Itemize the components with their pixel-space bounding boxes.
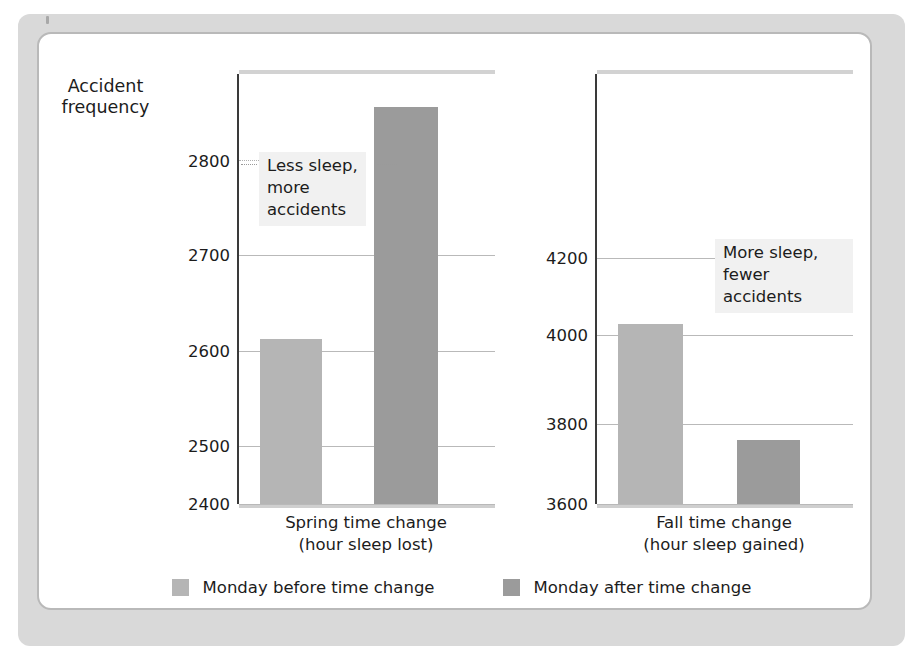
tick-label-fall-3600: 3600 — [546, 494, 588, 513]
legend-item-monday-before: Monday before time change — [172, 578, 435, 597]
tick-label-spring-2500: 2500 — [188, 437, 230, 456]
legend-label-monday-after: Monday after time change — [534, 578, 752, 597]
tick-label-fall-4200: 4200 — [546, 249, 588, 268]
legend-label-monday-before: Monday before time change — [203, 578, 435, 597]
callout-leader-left-spring — [241, 164, 257, 166]
callout-leader-right-spring — [377, 164, 397, 166]
x-axis-caption-spring: Spring time change (hour sleep lost) — [237, 512, 495, 556]
panel-fall-time-change: 4200 4000 3800 3600 More sleep, fewer ac… — [595, 74, 853, 504]
annotation-less-sleep-more-accidents: Less sleep, more accidents — [259, 152, 366, 226]
mat-speck-mark — [46, 16, 49, 24]
plot-top-rule-fall — [597, 70, 853, 74]
y-axis-title: Accident frequency — [28, 76, 183, 118]
legend-swatch-icon-before — [172, 579, 189, 596]
tick-label-spring-2700: 2700 — [188, 246, 230, 265]
plot-top-rule-spring — [239, 70, 495, 74]
plot-baseline-spring — [239, 504, 495, 508]
bar-fall-monday-after — [737, 440, 800, 504]
legend: Monday before time change Monday after t… — [0, 578, 923, 597]
annotation-more-sleep-fewer-accidents: More sleep, fewer accidents — [715, 239, 853, 313]
plot-baseline-fall — [597, 504, 853, 508]
tick-label-fall-3800: 3800 — [546, 415, 588, 434]
tick-label-spring-2600: 2600 — [188, 341, 230, 360]
plot-area-fall: 4200 4000 3800 3600 More sleep, fewer ac… — [595, 74, 853, 504]
gridline-spring-2700: 2700 — [239, 255, 495, 256]
bar-fall-monday-before — [618, 324, 683, 504]
bar-spring-monday-before — [260, 339, 322, 504]
bar-spring-monday-after — [374, 107, 438, 504]
panel-spring-time-change: 2800 2700 2600 2500 2400 Less sleep, mor… — [237, 74, 495, 504]
figure-root: Accident frequency 2800 2700 2600 2500 2… — [0, 0, 923, 667]
tick-label-spring-2800: 2800 — [188, 151, 230, 170]
legend-item-monday-after: Monday after time change — [503, 578, 752, 597]
legend-swatch-icon-after — [503, 579, 520, 596]
x-axis-caption-fall: Fall time change (hour sleep gained) — [595, 512, 853, 556]
plot-area-spring: 2800 2700 2600 2500 2400 Less sleep, mor… — [237, 74, 495, 504]
tick-label-fall-4000: 4000 — [546, 326, 588, 345]
tick-label-spring-2400: 2400 — [188, 494, 230, 513]
